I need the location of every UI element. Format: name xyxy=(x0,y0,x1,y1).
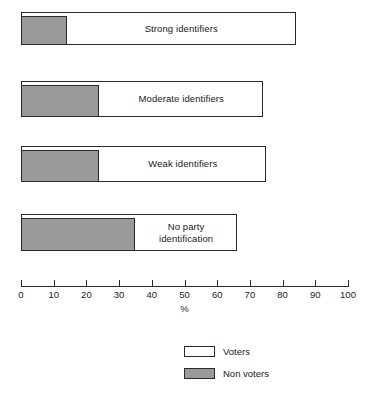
bar-segment-non-voters xyxy=(21,16,67,45)
axis-tick-label: 70 xyxy=(245,289,256,300)
axis-tick-label: 0 xyxy=(18,289,23,300)
axis-tick xyxy=(54,280,55,287)
axis-tick xyxy=(217,280,218,287)
axis-tick xyxy=(250,280,251,287)
axis-tick-label: 50 xyxy=(179,289,190,300)
bar-segment-non-voters xyxy=(21,150,99,182)
axis-tick-label: 60 xyxy=(212,289,223,300)
axis-tick xyxy=(315,280,316,287)
axis-tick xyxy=(119,280,120,287)
legend: VotersNon voters xyxy=(184,345,269,389)
axis-tick-label: 10 xyxy=(48,289,59,300)
axis-tick-label: 20 xyxy=(81,289,92,300)
legend-label: Voters xyxy=(223,346,250,357)
bar-chart: Strong identifiersModerate identifiersWe… xyxy=(0,0,365,396)
axis-tick xyxy=(185,280,186,287)
legend-item: Non voters xyxy=(184,367,269,379)
legend-item: Voters xyxy=(184,345,269,357)
bar-group: No party identification xyxy=(21,214,237,251)
bar-segment-non-voters xyxy=(21,218,135,251)
bar-group: Weak identifiers xyxy=(21,146,266,182)
axis-tick-label: 40 xyxy=(147,289,158,300)
bar-group: Strong identifiers xyxy=(21,12,296,45)
axis-tick-label: 100 xyxy=(340,289,356,300)
x-axis-title: % xyxy=(125,303,245,314)
axis-tick xyxy=(348,280,349,287)
axis-tick xyxy=(21,280,22,287)
axis-tick-label: 80 xyxy=(277,289,288,300)
legend-swatch xyxy=(184,346,215,357)
legend-label: Non voters xyxy=(223,368,269,379)
axis-tick xyxy=(152,280,153,287)
axis-tick-label: 90 xyxy=(310,289,321,300)
bar-group: Moderate identifiers xyxy=(21,81,263,117)
axis-tick xyxy=(283,280,284,287)
axis-tick xyxy=(86,280,87,287)
axis-tick-label: 30 xyxy=(114,289,125,300)
legend-swatch xyxy=(184,368,215,379)
bar-segment-non-voters xyxy=(21,85,99,117)
